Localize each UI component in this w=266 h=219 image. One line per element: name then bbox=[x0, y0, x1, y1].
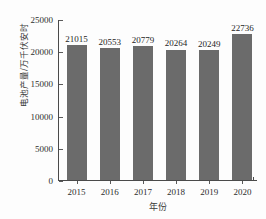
bar-value-label: 20264 bbox=[165, 38, 188, 48]
x-tick-label: 2016 bbox=[101, 187, 119, 197]
y-tick bbox=[59, 181, 63, 182]
x-tick-label: 2020 bbox=[233, 187, 251, 197]
bar-value-label: 21015 bbox=[65, 34, 88, 44]
bar-value-label: 22736 bbox=[231, 23, 254, 33]
x-axis-right-cap bbox=[253, 177, 254, 181]
bar-value-label: 20249 bbox=[198, 39, 221, 49]
x-tick bbox=[143, 181, 144, 184]
bar-value-label: 20779 bbox=[132, 35, 155, 45]
y-tick bbox=[59, 84, 63, 85]
y-axis-line bbox=[58, 20, 59, 181]
bar-value-label: 20553 bbox=[99, 37, 122, 47]
x-tick-label: 2015 bbox=[68, 187, 86, 197]
y-tick-label: 25000 bbox=[31, 15, 54, 25]
y-tick bbox=[59, 149, 63, 150]
plot-area: 0500010000150002000025000 20152016201720… bbox=[58, 20, 257, 181]
x-tick-label: 2018 bbox=[167, 187, 185, 197]
bar bbox=[100, 48, 120, 180]
bar bbox=[232, 34, 252, 180]
x-tick bbox=[209, 181, 210, 184]
y-tick-label: 15000 bbox=[31, 79, 54, 89]
y-tick-label: 5000 bbox=[35, 144, 53, 154]
bar bbox=[133, 46, 153, 180]
x-axis-title: 年份 bbox=[58, 200, 258, 213]
bar bbox=[166, 50, 186, 181]
x-tick bbox=[110, 181, 111, 184]
y-tick-label: 10000 bbox=[31, 112, 54, 122]
bar-chart-figure: 电池产量/万千伏安时 0500010000150002000025000 201… bbox=[0, 0, 266, 219]
bar bbox=[67, 45, 87, 180]
y-tick bbox=[59, 117, 63, 118]
y-tick-label: 20000 bbox=[31, 47, 54, 57]
x-tick-label: 2019 bbox=[200, 187, 218, 197]
x-axis-line bbox=[58, 180, 257, 181]
x-tick bbox=[242, 181, 243, 184]
x-tick bbox=[176, 181, 177, 184]
y-tick bbox=[59, 52, 63, 53]
x-tick bbox=[77, 181, 78, 184]
bar bbox=[199, 50, 219, 180]
y-axis-title: 电池产量/万千伏安时 bbox=[17, 0, 31, 135]
x-tick-label: 2017 bbox=[134, 187, 152, 197]
y-tick bbox=[59, 20, 63, 21]
y-tick-label: 0 bbox=[49, 176, 54, 186]
